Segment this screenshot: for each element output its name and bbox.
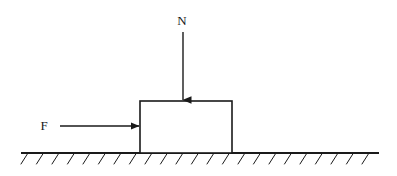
normal-force-label: N [177,13,187,28]
applied-force-label: F [40,118,47,133]
physics-diagram: N F [0,0,397,176]
block [140,101,232,153]
diagram-canvas: N F [0,0,397,176]
